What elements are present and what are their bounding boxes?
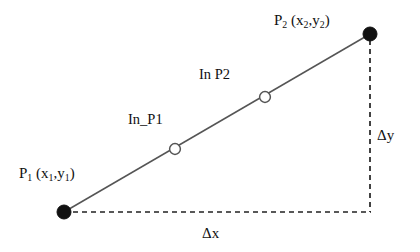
label-p2-subscript: 2	[282, 19, 287, 30]
point-marker-in-p1	[170, 144, 181, 155]
label-point-p2: P2 (x2,y2)	[274, 13, 330, 28]
line-diagram-svg	[0, 0, 420, 252]
label-point-p1: P1 (x1,y1)	[19, 166, 75, 181]
hypotenuse-line	[64, 34, 370, 212]
label-p2-coords-open: (x	[287, 12, 303, 28]
label-point-in-p1: In_P1	[128, 112, 163, 127]
label-point-in-p2: In P2	[199, 67, 230, 82]
label-p2-coords-mid: ,y	[308, 12, 319, 28]
point-marker-p1	[57, 205, 71, 219]
label-p1-coords-open: (x	[32, 165, 48, 181]
point-marker-in-p2	[260, 92, 271, 103]
label-p1-subscript: 1	[27, 172, 32, 183]
diagram-canvas: P2 (x2,y2) P1 (x1,y1) In_P1 In P2 Δy Δx	[0, 0, 420, 252]
label-delta-y: Δy	[377, 128, 394, 143]
label-p1-coords-close: )	[70, 165, 75, 181]
label-p2-coords-close: )	[325, 12, 330, 28]
label-p1-coords-sub-x: 1	[49, 172, 54, 183]
label-p1-coords-mid: ,y	[53, 165, 64, 181]
label-delta-x: Δx	[202, 226, 219, 241]
label-p1-coords-sub-y: 1	[65, 172, 70, 183]
label-p2-coords-sub-y: 2	[320, 19, 325, 30]
point-marker-p2	[363, 27, 377, 41]
label-p2-coords-sub-x: 2	[304, 19, 309, 30]
